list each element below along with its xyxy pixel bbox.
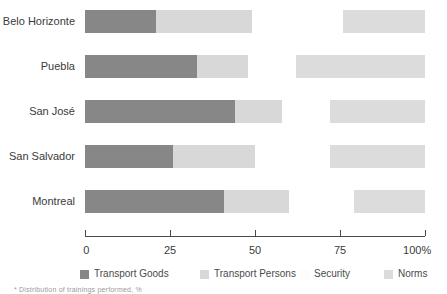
bar-segment-transport-goods[interactable] (85, 190, 224, 213)
category-label: San Salvador (9, 145, 75, 168)
chart-legend: Transport Goods Transport Persons Securi… (0, 264, 447, 280)
bar-segment-transport-persons[interactable] (173, 145, 255, 168)
axis-tick (85, 230, 86, 236)
legend-label: Security (314, 268, 350, 279)
legend-item-transport-persons[interactable]: Transport Persons (200, 264, 296, 278)
plot-area: Belo Horizonte Puebla San José San Salva… (0, 0, 447, 240)
category-label: Montreal (32, 190, 75, 213)
axis-tick (340, 230, 341, 236)
category-label: Belo Horizonte (3, 10, 75, 33)
axis-tick-label: 75 (334, 244, 346, 256)
axis-tick-label: 100% (403, 244, 431, 256)
bar-segment-norms[interactable] (330, 100, 425, 123)
bar-segment-security[interactable] (289, 190, 354, 213)
bar-segment-security[interactable] (252, 10, 344, 33)
axis-tick (255, 230, 256, 236)
bar-segment-transport-goods[interactable] (85, 10, 156, 33)
horizontal-stacked-bar-chart: Belo Horizonte Puebla San José San Salva… (0, 0, 447, 294)
bar-segment-transport-persons[interactable] (235, 100, 283, 123)
bar-segment-transport-goods[interactable] (85, 55, 197, 78)
chart-row: San Salvador (0, 145, 447, 168)
category-label: San José (29, 100, 75, 123)
bar-segment-security[interactable] (282, 100, 330, 123)
bar-segment-norms[interactable] (296, 55, 425, 78)
legend-swatch-transport-goods (80, 270, 89, 279)
axis-tick-label: 50 (249, 244, 261, 256)
bar-segment-transport-goods[interactable] (85, 145, 173, 168)
legend-item-security[interactable]: Security (300, 264, 350, 278)
axis-tick-label: 25 (164, 244, 176, 256)
bar-segment-norms[interactable] (343, 10, 425, 33)
legend-item-transport-goods[interactable]: Transport Goods (80, 264, 169, 278)
bar-segment-norms[interactable] (354, 190, 425, 213)
chart-footnote: * Distribution of trainings performed, % (14, 286, 142, 293)
legend-label: Norms (398, 268, 427, 279)
axis-tick (425, 230, 426, 236)
axis-tick-label: 0 (83, 244, 89, 256)
bar-segment-security[interactable] (255, 145, 330, 168)
bar-segment-norms[interactable] (330, 145, 425, 168)
legend-swatch-transport-persons (200, 270, 209, 279)
bar-segment-transport-goods[interactable] (85, 100, 235, 123)
chart-row: Montreal (0, 190, 447, 213)
legend-label: Transport Goods (94, 268, 169, 279)
bar-segment-transport-persons[interactable] (156, 10, 251, 33)
chart-row: Belo Horizonte (0, 10, 447, 33)
axis-tick (170, 230, 171, 236)
legend-swatch-security (300, 270, 309, 279)
chart-row: Puebla (0, 55, 447, 78)
chart-row: San José (0, 100, 447, 123)
category-label: Puebla (41, 55, 75, 78)
bar-segment-transport-persons[interactable] (197, 55, 248, 78)
legend-swatch-norms (384, 270, 393, 279)
bar-segment-security[interactable] (248, 55, 296, 78)
bar-segment-transport-persons[interactable] (224, 190, 289, 213)
legend-label: Transport Persons (214, 268, 296, 279)
x-axis: 0255075100% (0, 236, 447, 260)
legend-item-norms[interactable]: Norms (384, 264, 427, 278)
axis-line (85, 236, 425, 237)
